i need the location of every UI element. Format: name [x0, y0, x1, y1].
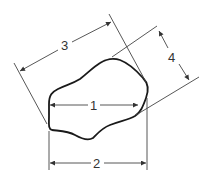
dim3-label: 3 — [61, 38, 68, 53]
dim4-line-a — [159, 31, 168, 48]
dim3-extension-right — [109, 14, 146, 82]
dim1-label: 1 — [90, 98, 97, 113]
dim3-line-b — [72, 22, 111, 42]
dim3-extension-left — [14, 63, 47, 124]
dim2-label: 2 — [93, 156, 100, 171]
dim4-label: 4 — [168, 50, 175, 65]
particle-outline — [49, 59, 148, 139]
particle-dimension-diagram: 3 4 1 2 — [0, 0, 209, 177]
dim4-extension-upper — [112, 26, 157, 57]
dim3-line-a — [20, 50, 58, 71]
dim4-line-b — [179, 64, 189, 80]
